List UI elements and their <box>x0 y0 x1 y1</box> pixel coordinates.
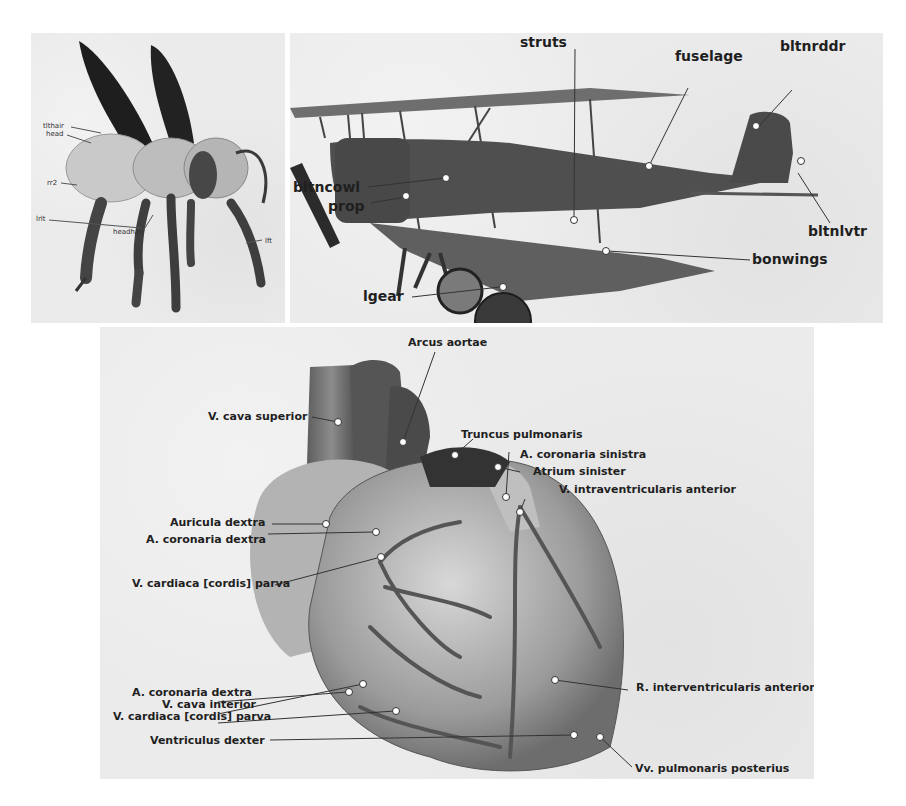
bee-label-tlthair: tlthair <box>43 123 64 130</box>
biplane-label-bltnrddr: bltnrddr <box>780 39 845 53</box>
bee-label-lft: lft <box>265 238 272 245</box>
heart-label-atrium-sinister: Atrium sinister <box>533 466 626 477</box>
heart-label-v-cava-superior: V. cava superior <box>208 411 307 422</box>
heart-label-a-coronaria-dextra-lower: A. coronaria dextra <box>132 687 252 698</box>
heart-label-a-coronaria-sinistra: A. coronaria sinistra <box>520 449 646 460</box>
heart-label-arcus-aortae: Arcus aortae <box>408 337 487 348</box>
heart-label-v-cardiaca-parva-lower: V. cardiaca [cordis] parva <box>113 711 271 722</box>
biplane-label-fuselage: fuselage <box>675 49 743 63</box>
biplane-label-bltncowl: bltncowl <box>293 180 360 194</box>
heart-label-truncus-pulmonaris: Truncus pulmonaris <box>461 429 583 440</box>
heart-label-r-interventricularis-anterior: R. interventricularis anterior <box>636 682 814 693</box>
bee-label-lrlt: lrlt <box>36 216 46 223</box>
bee-label-rr2: rr2 <box>47 180 57 187</box>
heart-label-v-cava-interior: V. cava interior <box>162 699 256 710</box>
biplane-label-prop: prop <box>328 199 365 213</box>
bee-label-head: head <box>46 131 63 138</box>
heart-label-a-coronaria-dextra-upper: A. coronaria dextra <box>146 534 266 545</box>
heart-label-vv-pulmonaris-posterius: Vv. pulmonaris posterius <box>635 763 789 774</box>
heart-label-v-cardiaca-parva-upper: V. cardiaca [cordis] parva <box>132 578 290 589</box>
bee-label-headhair: headhair <box>113 229 144 236</box>
bee-illustration <box>31 33 285 323</box>
heart-label-auricula-dextra: Auricula dextra <box>170 517 265 528</box>
biplane-panel: struts fuselage bltnrddr bltncowl prop b… <box>290 33 883 323</box>
bee-panel: tlthair head rr2 lrlt headhair lft <box>31 33 285 323</box>
biplane-label-struts: struts <box>520 35 567 49</box>
biplane-label-bonwings: bonwings <box>752 252 828 266</box>
heart-label-ventriculus-dexter: Ventriculus dexter <box>150 735 265 746</box>
heart-panel: Arcus aortae V. cava superior Truncus pu… <box>100 327 814 779</box>
biplane-illustration <box>290 33 883 323</box>
heart-label-v-intraventricularis-anterior: V. intraventricularis anterior <box>559 484 736 495</box>
biplane-label-lgear: lgear <box>363 289 404 303</box>
biplane-label-bltnlvtr: bltnlvtr <box>808 224 867 238</box>
